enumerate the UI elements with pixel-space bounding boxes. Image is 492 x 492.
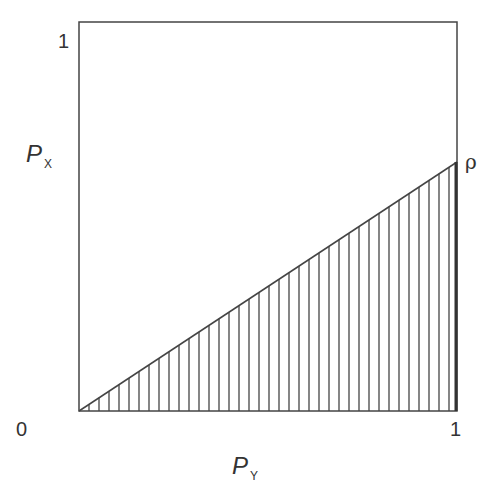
x-axis-label: PY <box>232 452 258 483</box>
y-tick-one: 1 <box>58 30 69 53</box>
rho-label: ρ <box>465 150 477 174</box>
unit-square <box>79 22 457 411</box>
y-axis-label: PX <box>26 140 52 171</box>
x-axis-label-main: P <box>232 452 248 479</box>
y-axis-label-main: P <box>26 140 42 167</box>
hatched-region <box>89 167 449 411</box>
diagram-canvas <box>0 0 492 492</box>
y-axis-label-sub: X <box>44 157 52 171</box>
x-tick-one: 1 <box>450 418 461 441</box>
x-axis-label-sub: Y <box>250 469 258 483</box>
diagonal-line <box>79 162 457 411</box>
origin-label: 0 <box>16 418 27 441</box>
